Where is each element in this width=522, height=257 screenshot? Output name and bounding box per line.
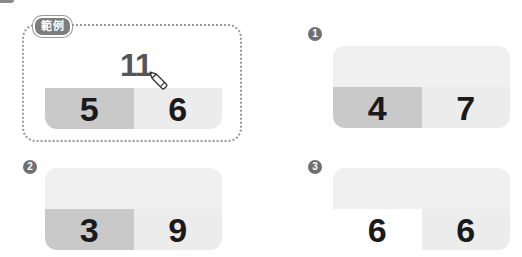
- cropped-decoration: [0, 0, 14, 3]
- exercise-2-number-bond: 3 9: [45, 168, 222, 250]
- part-left: 6: [333, 209, 422, 250]
- pencil-icon: [146, 68, 172, 94]
- part-right: 9: [134, 209, 223, 250]
- part-right: 6: [422, 209, 511, 250]
- example-label: 範例: [33, 16, 72, 37]
- exercise-3-number-bond: 6 6: [333, 168, 510, 250]
- part-right: 7: [422, 87, 511, 128]
- part-right: 6: [134, 88, 223, 129]
- exercise-1-number-bond: 4 7: [333, 46, 510, 128]
- part-left: 3: [45, 209, 134, 250]
- part-left: 4: [333, 87, 422, 128]
- total-input-area[interactable]: [45, 168, 222, 209]
- total-input-area[interactable]: [333, 168, 510, 209]
- total-input-area[interactable]: [333, 46, 510, 87]
- part-left: 5: [45, 88, 134, 129]
- exercise-badge-1: 1: [308, 27, 322, 41]
- exercise-badge-3: 3: [308, 160, 322, 174]
- exercise-badge-2: 2: [23, 160, 37, 174]
